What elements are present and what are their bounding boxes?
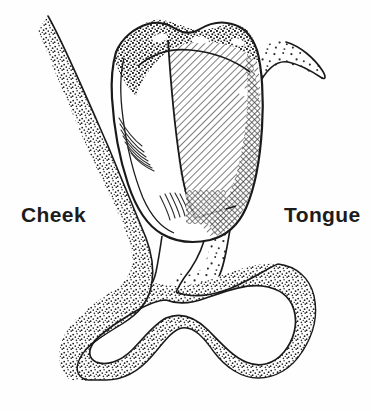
illustration-container: Cheek Tongue (0, 0, 371, 411)
label-cheek: Cheek (21, 203, 86, 227)
label-tongue: Tongue (284, 203, 361, 227)
cervical-crosshatch-patch (186, 190, 226, 224)
